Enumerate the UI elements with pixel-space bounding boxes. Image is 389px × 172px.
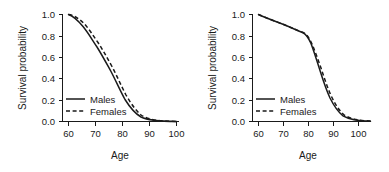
legend-label-females: Females — [280, 106, 317, 117]
y-tick-label: 0.2 — [232, 95, 245, 106]
x-tick-label: 60 — [63, 128, 74, 139]
x-axis-title: Age — [299, 150, 317, 161]
x-tick-label: 60 — [253, 128, 264, 139]
y-tick-label: 0.0 — [42, 116, 55, 127]
x-tick-label: 90 — [328, 128, 339, 139]
y-tick-label: 0.6 — [42, 52, 55, 63]
survival-curves-figure: 1.0 0.8 0.6 0.4 0.2 0.0 60 70 80 90 100 … — [0, 0, 389, 172]
x-tick-label: 80 — [303, 128, 314, 139]
legend-label-males: Males — [280, 94, 306, 105]
x-tick-label: 100 — [169, 128, 185, 139]
x-tick-label: 80 — [117, 128, 128, 139]
y-tick-label: 0.0 — [232, 116, 245, 127]
y-tick-label: 0.6 — [232, 52, 245, 63]
chart-panel-right: 1.0 0.8 0.6 0.4 0.2 0.0 60 70 80 90 100 … — [195, 0, 389, 172]
y-tick-label: 0.2 — [42, 95, 55, 106]
y-axis-title: Survival probability — [17, 26, 28, 110]
legend-label-females: Females — [90, 106, 127, 117]
y-tick-label: 0.4 — [42, 73, 55, 84]
x-tick-label: 100 — [351, 128, 367, 139]
legend-label-males: Males — [90, 94, 116, 105]
x-tick-label: 70 — [90, 128, 101, 139]
x-ticks-left — [69, 122, 177, 127]
y-ticks-right — [249, 15, 253, 122]
y-tick-label: 1.0 — [42, 9, 55, 20]
y-axis-title: Survival probability — [207, 26, 218, 110]
x-tick-label: 70 — [278, 128, 289, 139]
x-tick-label: 90 — [144, 128, 155, 139]
x-axis-title: Age — [111, 150, 129, 161]
legend-right: Males Females — [256, 94, 317, 117]
y-tick-label: 1.0 — [232, 9, 245, 20]
y-tick-label: 0.4 — [232, 73, 245, 84]
legend-left: Males Females — [66, 94, 127, 117]
y-tick-label: 0.8 — [42, 31, 55, 42]
y-tick-label: 0.8 — [232, 31, 245, 42]
y-ticks-left — [59, 15, 63, 122]
x-ticks-right — [259, 122, 359, 127]
chart-panel-left: 1.0 0.8 0.6 0.4 0.2 0.0 60 70 80 90 100 … — [0, 0, 194, 172]
